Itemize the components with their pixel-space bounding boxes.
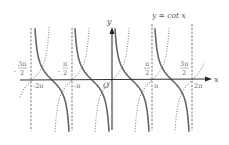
svg-text:-: - [14,67,16,75]
y-axis-label: y [106,17,112,26]
tick-minus-pi: -π [74,82,81,90]
tick-minus-2pi: -2π [33,82,44,90]
tick-pi: π [154,82,159,90]
svg-text:3π: 3π [18,60,27,68]
svg-text:2: 2 [145,69,149,77]
tick-minus-3pi-over-2: - 3π 2 [14,60,27,77]
x-axis-line [20,79,208,80]
svg-text:2: 2 [63,69,67,77]
curve-label: y = cot x [151,11,186,20]
y-axis-arrow-icon [110,27,115,34]
tick-pi-over-2: π 2 [144,60,150,77]
svg-text:π: π [63,60,68,68]
svg-text:2: 2 [182,69,186,77]
svg-text:3π: 3π [180,60,189,68]
cot-graph: x y O y = cot x -2π -π π 2π - 3π 2 - π 2… [0,0,229,145]
svg-text:-: - [58,67,60,75]
tick-3pi-over-2: 3π 2 [180,60,189,77]
x-axis-arrow-icon [205,77,212,82]
svg-text:2: 2 [20,69,24,77]
origin-label: O [103,81,109,90]
svg-text:π: π [145,60,150,68]
x-axis-label: x [214,75,219,84]
tick-2pi: 2π [194,82,203,90]
tick-minus-pi-over-2: - π 2 [58,60,68,77]
